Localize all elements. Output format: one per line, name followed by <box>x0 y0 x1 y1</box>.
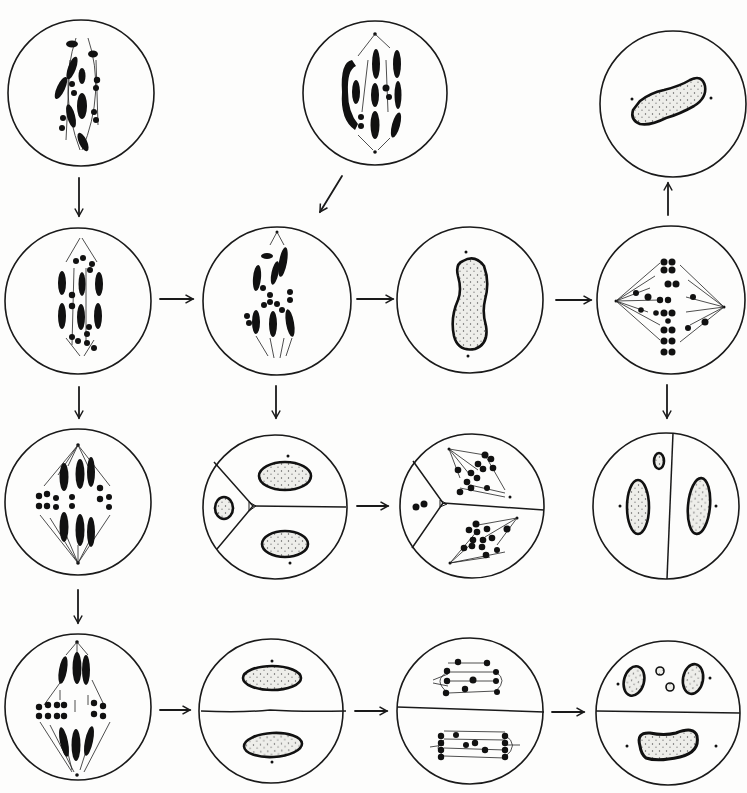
cell-r2c4 <box>597 226 745 374</box>
nucleus <box>627 480 649 534</box>
cell-r3c1 <box>5 429 151 575</box>
cell-r2c1 <box>5 228 151 374</box>
cell-r1c2 <box>303 21 447 165</box>
micronucleus <box>666 683 674 691</box>
nucleus <box>259 462 311 490</box>
cell-r4c1 <box>5 634 151 780</box>
cell-r3c4 <box>593 433 739 579</box>
cell-r3c2 <box>203 435 347 579</box>
nucleus <box>243 666 301 690</box>
cell-r4c3 <box>397 638 544 784</box>
nucleus <box>632 78 705 124</box>
nucleus <box>686 477 713 535</box>
nucleus <box>453 258 488 349</box>
cell-r4c4 <box>596 641 740 785</box>
nucleus <box>243 731 302 758</box>
arrow-r1c2-to-r2c2 <box>320 176 342 212</box>
cell-r4c2 <box>199 639 346 783</box>
nucleus <box>639 730 697 760</box>
cell-r1c1 <box>8 20 154 166</box>
cell-division-diagram <box>0 0 747 793</box>
cell-r2c2 <box>203 227 351 375</box>
cell-r2c3 <box>397 227 543 373</box>
diagram-canvas <box>0 0 747 793</box>
micronucleus <box>656 667 664 675</box>
micronucleus <box>654 453 664 469</box>
nucleus <box>681 662 706 695</box>
arrows <box>78 176 668 712</box>
nucleus <box>620 664 647 698</box>
nucleus <box>262 531 308 557</box>
nucleus <box>215 497 233 519</box>
cell-r1c4 <box>600 31 746 177</box>
cell-r3c3 <box>400 434 544 578</box>
